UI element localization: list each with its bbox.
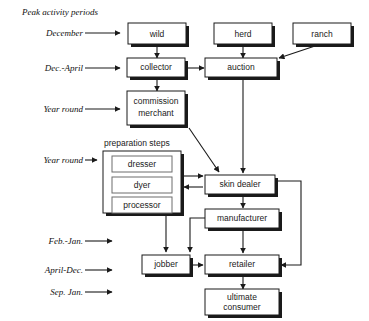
period-label-text: April-Dec. [44,265,83,275]
node-wild[interactable]: wild [128,23,189,47]
period-label-year-round-2: Year round [43,155,97,165]
node-label: auction [227,62,255,72]
period-label-text: Feb.-Jan. [48,236,83,246]
node-manufacturer[interactable]: manufacturer [205,209,282,231]
chart-caption: Peak activity periods [21,7,98,17]
node-dresser[interactable]: dresser [112,156,172,172]
node-label-line1: ultimate [227,292,257,302]
node-herd[interactable]: herd [214,23,275,47]
node-label: jobber [153,259,178,269]
period-label-text: December [45,28,83,38]
node-auction[interactable]: auction [205,58,280,80]
node-ultimate-consumer[interactable]: ultimate consumer [205,289,282,318]
period-label-feb-jan: Feb.-Jan. [48,236,112,246]
connector-commission-merchant-to-skin-dealer [189,128,219,172]
node-label: skin dealer [219,179,260,189]
node-commission-merchant[interactable]: commission merchant [127,91,188,128]
period-label-text: Dec.-April [44,63,84,73]
node-skin-dealer[interactable]: skin dealer [205,175,278,197]
preparation-steps-group: dresser dyer processor [103,151,184,216]
node-label-line2: merchant [138,108,174,118]
node-label: herd [234,29,251,39]
node-label-line1: commission [134,96,179,106]
period-label-april-dec: April-Dec. [44,265,112,275]
period-label-text: Year round [43,155,83,165]
node-jobber[interactable]: jobber [142,255,193,277]
period-label-dec-april: Dec.-April [44,63,120,73]
node-label: processor [123,200,160,210]
period-label-december: December [45,28,120,38]
connector-manufacturer-to-jobber-feed [190,218,205,252]
node-collector[interactable]: collector [127,58,188,80]
period-label-text: Year round [43,104,83,114]
node-label: ranch [311,29,333,39]
node-label: collector [140,62,172,72]
period-label-text: Sep. Jan. [50,287,83,297]
node-processor[interactable]: processor [112,197,172,213]
node-label: dresser [128,159,157,169]
node-retailer[interactable]: retailer [205,255,282,277]
node-label: wild [149,29,165,39]
node-label-line2: consumer [223,302,260,312]
node-ranch[interactable]: ranch [293,23,354,47]
node-label: manufacturer [217,213,267,223]
node-label: retailer [229,259,255,269]
period-label-sep-jan: Sep. Jan. [50,287,112,297]
node-dyer[interactable]: dyer [112,177,172,193]
node-label: dyer [134,180,151,190]
flowchart-diagram: Peak activity periods December Dec.-Apri… [0,0,369,321]
preparation-steps-title: preparation steps [104,138,170,148]
period-label-year-round-1: Year round [43,104,120,114]
